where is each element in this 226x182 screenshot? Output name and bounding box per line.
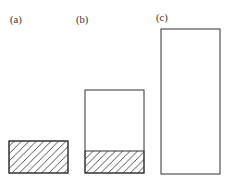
panel-c: (c) (156, 12, 220, 174)
hatched-fill-a (9, 141, 68, 173)
panel-b: (b) (76, 14, 144, 173)
three-bar-diagram: (a)(b)(c) (0, 0, 226, 182)
panel-label-b: (b) (76, 14, 89, 26)
panel-label-c: (c) (156, 12, 168, 24)
panel-label-a: (a) (10, 14, 22, 26)
bar-outline-c (161, 29, 220, 174)
panel-a: (a) (9, 14, 68, 173)
hatched-fill-b (85, 151, 144, 173)
